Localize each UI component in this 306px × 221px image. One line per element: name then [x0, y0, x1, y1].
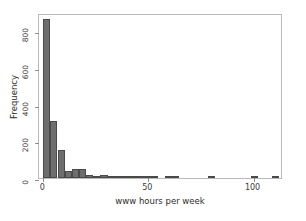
histogram-bar — [208, 176, 215, 178]
histogram-bar — [136, 176, 143, 178]
y-tick-mark — [35, 107, 39, 108]
y-tick-label-group: 0200400600800 — [0, 14, 33, 179]
y-tick-label: 800 — [22, 28, 30, 42]
histogram-bar — [172, 176, 179, 178]
histogram-bar — [93, 176, 100, 178]
histogram-bar — [65, 171, 72, 178]
histogram-figure: Frequency 0200400600800 050100 www hours… — [0, 0, 306, 221]
histogram-bar — [143, 176, 150, 178]
histogram-bar — [129, 176, 136, 178]
y-tick-label: 600 — [22, 65, 30, 79]
histogram-bar — [115, 176, 122, 178]
x-tick-label-group: 050100 — [38, 183, 282, 195]
histogram-bar — [58, 150, 65, 178]
y-tick-label: 0 — [22, 180, 30, 185]
x-axis-title: www hours per week — [38, 196, 282, 206]
y-tick-mark — [35, 70, 39, 71]
histogram-bar — [100, 175, 107, 178]
y-tick-label: 400 — [22, 102, 30, 116]
histogram-bar — [50, 121, 57, 178]
y-tick-mark — [35, 33, 39, 34]
histogram-bar — [79, 169, 86, 178]
x-tick-label: 100 — [245, 183, 260, 193]
plot-area — [38, 14, 282, 179]
x-tick-mark — [43, 178, 44, 182]
bar-group — [39, 15, 281, 178]
x-tick-label: 0 — [40, 183, 45, 193]
x-tick-mark — [254, 178, 255, 182]
histogram-bar — [122, 176, 129, 178]
x-tick-label: 50 — [142, 183, 152, 193]
y-tick-mark — [35, 180, 39, 181]
histogram-bar — [165, 176, 172, 178]
y-tick-mark — [35, 143, 39, 144]
histogram-bar — [272, 176, 279, 178]
x-tick-mark — [148, 178, 149, 182]
y-tick-label: 200 — [22, 138, 30, 152]
histogram-bar — [86, 175, 93, 178]
histogram-bar — [108, 176, 115, 178]
histogram-bar — [150, 176, 157, 178]
histogram-bar — [72, 169, 79, 178]
histogram-bar — [43, 19, 50, 179]
